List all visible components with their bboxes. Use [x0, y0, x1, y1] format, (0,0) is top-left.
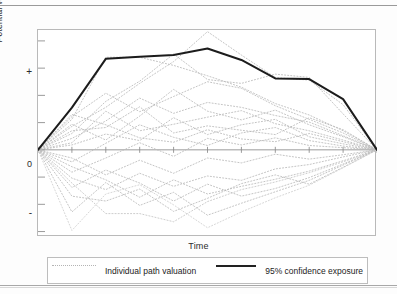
y-tick-label-negative: - — [18, 207, 32, 218]
page-rule-bottom — [0, 285, 397, 286]
y-tick-label-zero: 0 — [18, 159, 32, 169]
legend-label-individual-path: Individual path valuation — [105, 266, 196, 276]
legend-item-individual-path: Individual path valuation — [52, 266, 196, 276]
page-rule-bottom-shadow — [0, 287, 397, 288]
y-tick-label-positive: + — [18, 66, 32, 77]
legend-item-confidence-exposure: 95% confidence exposure — [216, 266, 363, 276]
plot-area — [37, 29, 376, 236]
solid-line-swatch-icon — [216, 265, 256, 275]
figure-container: Potential value + 0 - Time Individual pa… — [0, 8, 397, 284]
page-canvas: Potential value + 0 - Time Individual pa… — [0, 0, 397, 294]
chart-svg — [38, 30, 377, 237]
y-axis-label: Potential value — [0, 0, 4, 68]
dotted-line-swatch-icon — [52, 265, 96, 274]
legend-label-confidence-exposure: 95% confidence exposure — [265, 266, 363, 276]
page-rule-top — [0, 5, 397, 6]
chart-legend: Individual path valuation 95% confidence… — [47, 257, 368, 284]
x-axis-label: Time — [0, 241, 397, 251]
